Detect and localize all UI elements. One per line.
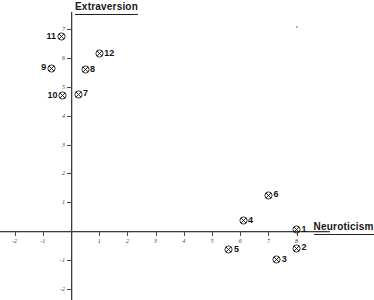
x-tick-label: 2 — [126, 238, 129, 244]
y-axis-title: Extraversion — [75, 2, 138, 15]
data-point-label: 9 — [41, 63, 46, 72]
data-point-label: 5 — [234, 245, 239, 254]
x-tick — [184, 231, 185, 236]
x-axis-title: Neuroticism — [314, 222, 374, 235]
circled-cross-icon — [224, 245, 233, 254]
y-tick-label: -2 — [57, 286, 65, 292]
x-tick — [268, 231, 269, 236]
circled-cross-icon — [272, 255, 281, 264]
x-tick-label: 7 — [267, 238, 270, 244]
x-tick-label: 5 — [211, 238, 214, 244]
data-point-label: 7 — [83, 89, 88, 98]
data-point-label: 12 — [104, 49, 114, 58]
y-tick — [67, 145, 72, 146]
y-tick-label: 5 — [57, 84, 65, 90]
x-tick-label: -1 — [40, 238, 45, 244]
x-tick — [240, 231, 241, 236]
x-tick — [212, 231, 213, 236]
circled-cross-icon — [47, 64, 56, 73]
x-tick-label: 4 — [182, 238, 185, 244]
circled-cross-icon — [264, 191, 273, 200]
x-tick — [43, 231, 44, 236]
x-tick-label: -2 — [12, 238, 17, 244]
circled-cross-icon — [292, 244, 301, 253]
y-tick-label: 2 — [57, 170, 65, 176]
circled-cross-icon — [58, 91, 67, 100]
circled-cross-icon — [74, 90, 83, 99]
x-tick-label: 3 — [154, 238, 157, 244]
y-tick — [67, 58, 72, 59]
y-tick — [67, 29, 72, 30]
y-tick — [67, 116, 72, 117]
y-tick-label: 6 — [57, 55, 65, 61]
y-tick — [67, 260, 72, 261]
data-point-label: 6 — [273, 190, 278, 199]
data-point-label: 2 — [302, 243, 307, 252]
x-tick-label: 1 — [98, 238, 101, 244]
data-point-label: 10 — [48, 91, 58, 100]
circled-cross-icon — [292, 225, 301, 234]
y-tick — [67, 202, 72, 203]
y-tick-label: -1 — [57, 257, 65, 263]
data-point-label: 3 — [282, 255, 287, 264]
circled-cross-icon — [81, 65, 90, 74]
y-tick — [67, 87, 72, 88]
data-point-label: 11 — [47, 32, 57, 41]
circled-cross-icon — [95, 49, 104, 58]
y-axis-line — [71, 12, 72, 300]
data-point-label: 8 — [90, 65, 95, 74]
x-tick — [127, 231, 128, 236]
y-tick-label: 4 — [57, 113, 65, 119]
x-tick — [15, 231, 16, 236]
y-tick-label: 3 — [57, 142, 65, 148]
y-tick — [67, 173, 72, 174]
scan-speck — [296, 26, 298, 28]
circled-cross-icon — [57, 32, 66, 41]
data-point-label: 1 — [302, 225, 307, 234]
x-axis-line — [0, 231, 330, 232]
x-tick — [156, 231, 157, 236]
x-tick-label: 6 — [239, 238, 242, 244]
data-point-label: 4 — [248, 216, 253, 225]
y-tick — [67, 289, 72, 290]
circled-cross-icon — [239, 216, 248, 225]
y-tick-label: 1 — [57, 199, 65, 205]
x-tick — [99, 231, 100, 236]
